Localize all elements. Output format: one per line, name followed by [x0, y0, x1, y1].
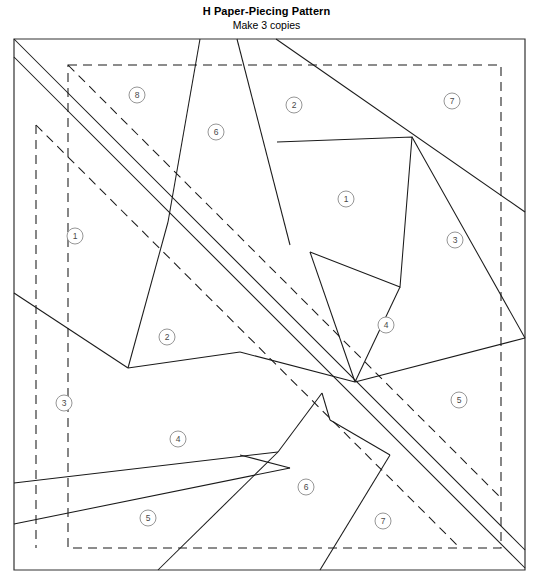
label-2-upper: 2: [286, 97, 302, 113]
label-2-upper-text: 2: [292, 100, 297, 110]
label-4-left: 4: [170, 431, 186, 447]
upper-left-lines: [168, 39, 525, 245]
dashed-diagonal-guides: [36, 65, 501, 548]
label-1-left: 1: [67, 228, 83, 244]
section-labels: 8 6 2 7 1 3 1: [56, 87, 467, 529]
label-4-right: 4: [378, 317, 394, 333]
label-7-upper: 7: [444, 93, 460, 109]
label-2-left: 2: [159, 329, 175, 345]
label-1-center: 1: [338, 191, 354, 207]
label-1-left-text: 1: [73, 231, 78, 241]
outer-border: [14, 39, 525, 570]
label-6-lower-text: 6: [304, 482, 309, 492]
label-7-lower: 7: [375, 513, 391, 529]
label-6-upper-text: 6: [214, 127, 219, 137]
label-5-left-text: 5: [146, 513, 151, 523]
label-4-right-text: 4: [384, 320, 389, 330]
label-5-left: 5: [140, 510, 156, 526]
label-7-upper-text: 7: [450, 96, 455, 106]
label-8: 8: [129, 87, 145, 103]
label-5-right: 5: [451, 392, 467, 408]
label-4-left-text: 4: [176, 434, 181, 444]
label-1-center-text: 1: [344, 194, 349, 204]
right-sector-lines: [310, 137, 525, 382]
lower-middle-lines: [158, 393, 390, 570]
label-6-upper: 6: [208, 124, 224, 140]
main-diagonal-band: [14, 39, 525, 568]
label-6-lower: 6: [298, 479, 314, 495]
pattern-page: H Paper-Piecing Pattern Make 3 copies: [0, 0, 533, 581]
pattern-drawing: 8 6 2 7 1 3 1: [0, 0, 533, 581]
label-2-left-text: 2: [165, 332, 170, 342]
label-3-left-text: 3: [62, 398, 67, 408]
center-quad-piece-1: [277, 137, 412, 287]
label-3-left: 3: [56, 395, 72, 411]
label-3-right-text: 3: [453, 235, 458, 245]
label-8-text: 8: [135, 90, 140, 100]
left-sector-lines: [14, 222, 355, 382]
label-5-right-text: 5: [457, 395, 462, 405]
label-3-right: 3: [447, 232, 463, 248]
dashed-seam-box: [68, 65, 501, 548]
label-7-lower-text: 7: [381, 516, 386, 526]
